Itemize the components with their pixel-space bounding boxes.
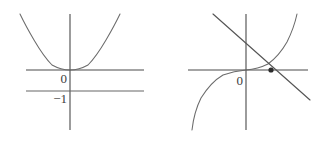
left-figure-parabola: 0 −1 — [0, 0, 161, 141]
left-origin-label: 0 — [61, 71, 68, 86]
left-minus-one-label: −1 — [53, 91, 67, 106]
left-figure-canvas: 0 −1 — [0, 0, 161, 141]
right-origin-label: 0 — [237, 73, 244, 88]
figure-pair: 0 −1 0 — [0, 0, 323, 141]
right-figure-cubic-line: 0 — [161, 0, 323, 141]
decreasing-line — [213, 14, 310, 100]
intersection-point-marker — [268, 67, 273, 72]
right-figure-canvas: 0 — [161, 0, 323, 141]
cubic-curve — [192, 14, 297, 130]
